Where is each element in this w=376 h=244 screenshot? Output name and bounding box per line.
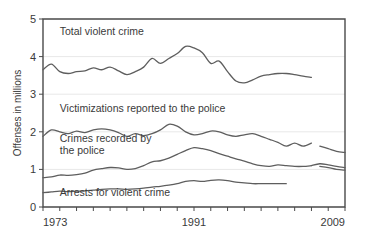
- x-tick-label: 1973: [43, 216, 67, 228]
- line-chart: 012345 Total violent crimeVictimizations…: [0, 0, 376, 244]
- series-label-1: Victimizations reported to the police: [60, 102, 226, 114]
- x-tick-label: 1991: [182, 216, 206, 228]
- series-label-3: Arrests for violent crime: [60, 186, 170, 198]
- y-tick-label: 3: [30, 88, 36, 100]
- series-label-2-line1: Crimes recorded by: [60, 132, 152, 144]
- y-tick-label: 1: [30, 163, 36, 175]
- x-tick-label: 2009: [321, 216, 345, 228]
- y-tick-label: 5: [30, 13, 36, 25]
- chart-figure: 012345 Total violent crimeVictimizations…: [0, 0, 376, 244]
- y-tick-label: 2: [30, 126, 36, 138]
- y-tick-label: 0: [30, 201, 36, 213]
- y-axis-title: Offenses in millions: [12, 70, 23, 157]
- series-label-2-line2: the police: [60, 144, 105, 156]
- y-tick-label: 4: [30, 51, 36, 63]
- series-label-0: Total violent crime: [60, 25, 144, 37]
